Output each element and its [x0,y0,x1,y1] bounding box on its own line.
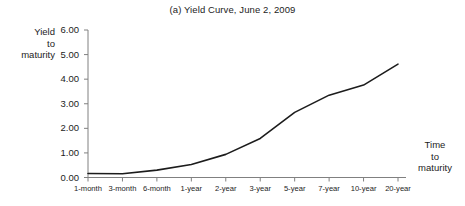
x-tick-label-1-year: 1-year [181,184,203,193]
yield-curve-figure: (a) Yield Curve, June 2, 2009 Yield to m… [0,0,465,206]
x-tick-label-20-year: 20-year [385,184,411,193]
axes-group [88,30,406,178]
y-tick-label-2: 2.00 [49,122,79,133]
y-tick-label-3: 3.00 [49,98,79,109]
y-tick-label-1: 1.00 [49,147,79,158]
y-tick-label-6: 6.00 [49,24,79,35]
plot-area: 0.001.002.003.004.005.006.00 1-month3-mo… [0,0,465,206]
x-tick-label-1-month: 1-month [74,184,102,193]
x-tick-label-5-year: 5-year [284,184,306,193]
yield-curve-line [88,64,398,174]
y-tick-label-4: 4.00 [49,73,79,84]
x-tick-label-3-year: 3-year [249,184,271,193]
x-tick-label-3-month: 3-month [109,184,137,193]
x-tick-label-2-year: 2-year [215,184,237,193]
tick-marks-group [84,30,398,182]
x-tick-label-6-month: 6-month [143,184,171,193]
y-tick-label-0: 0.00 [49,172,79,183]
x-tick-label-10-year: 10-year [351,184,377,193]
y-tick-label-5: 5.00 [49,49,79,60]
x-tick-label-7-year: 7-year [318,184,340,193]
